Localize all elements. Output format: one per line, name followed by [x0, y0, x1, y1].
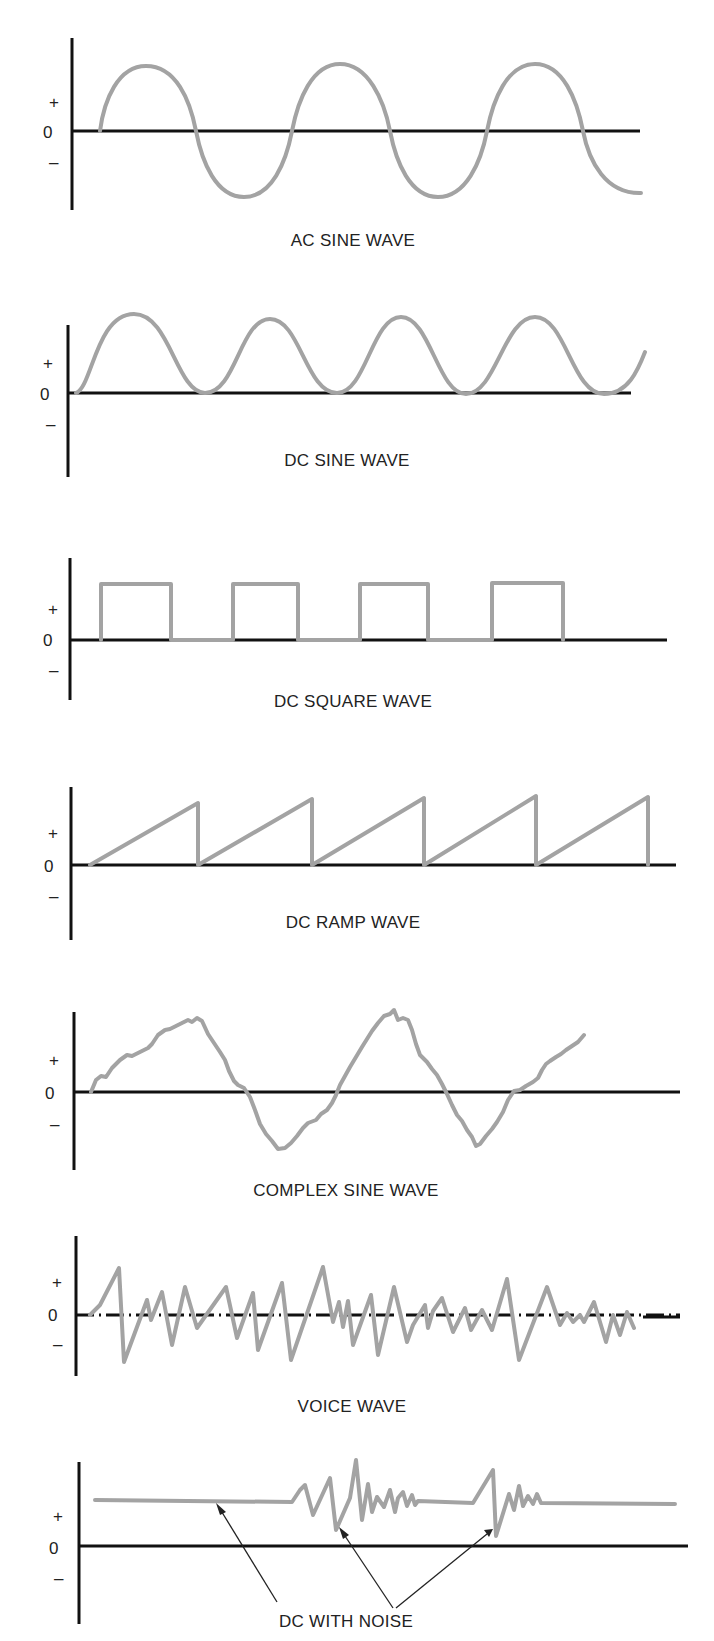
- arrowhead-icon: [216, 1503, 226, 1515]
- arrowhead-icon: [339, 1527, 349, 1539]
- panel-complex-sine: + 0 – COMPLEX SINE WAVE: [45, 1010, 680, 1200]
- dc-sine-waveform: [76, 314, 645, 394]
- annotation-arrows: [216, 1503, 493, 1608]
- minus-label: –: [46, 415, 56, 434]
- plus-label: +: [53, 1507, 63, 1526]
- caption: DC SINE WAVE: [284, 451, 409, 470]
- zero-label: 0: [49, 1539, 58, 1558]
- zero-label: 0: [43, 631, 52, 650]
- minus-label: –: [50, 1115, 60, 1134]
- panel-dc-ramp: + 0 – DC RAMP WAVE: [44, 787, 676, 940]
- plus-label: +: [48, 600, 58, 619]
- zero-label: 0: [43, 123, 52, 142]
- minus-label: –: [53, 1335, 63, 1354]
- plus-label: +: [49, 1051, 59, 1070]
- zero-label: 0: [48, 1306, 57, 1325]
- panel-dc-square: + 0 – DC SQUARE WAVE: [43, 558, 667, 711]
- plus-label: +: [48, 824, 58, 843]
- caption: VOICE WAVE: [298, 1397, 407, 1416]
- caption: DC SQUARE WAVE: [274, 692, 432, 711]
- caption: COMPLEX SINE WAVE: [253, 1181, 439, 1200]
- panel-dc-sine: + 0 – DC SINE WAVE: [40, 314, 645, 477]
- zero-label: 0: [40, 385, 49, 404]
- caption: AC SINE WAVE: [291, 231, 416, 250]
- zero-label: 0: [45, 1084, 54, 1103]
- complex-sine-waveform: [91, 1010, 584, 1149]
- zero-label: 0: [44, 857, 53, 876]
- plus-label: +: [43, 354, 53, 373]
- minus-label: –: [49, 153, 59, 172]
- minus-label: –: [49, 887, 59, 906]
- arrow-to-noise-1: [343, 1533, 393, 1608]
- panel-voice: + 0 – VOICE WAVE: [48, 1236, 680, 1416]
- panel-ac-sine: + 0 – AC SINE WAVE: [43, 38, 641, 250]
- caption: DC WITH NOISE: [279, 1612, 413, 1631]
- plus-label: +: [49, 93, 59, 112]
- dc-square-waveform: [101, 583, 563, 640]
- dc-noise-waveform: [95, 1460, 675, 1536]
- dc-ramp-waveform: [90, 796, 648, 865]
- panel-dc-noise: + 0 – DC WITH NOISE: [49, 1460, 688, 1631]
- caption: DC RAMP WAVE: [286, 913, 421, 932]
- plus-label: +: [52, 1273, 62, 1292]
- minus-label: –: [49, 661, 59, 680]
- minus-label: –: [54, 1569, 64, 1588]
- waveform-figure: + 0 – AC SINE WAVE + 0 – DC SINE WAVE + …: [0, 0, 714, 1641]
- arrow-to-dc-level: [220, 1509, 277, 1602]
